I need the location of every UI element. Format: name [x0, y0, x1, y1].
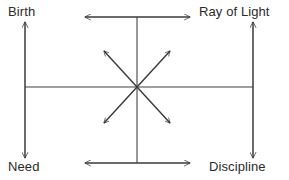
diagram-graphic [0, 0, 289, 180]
radiating-arrow-down-right [137, 87, 170, 123]
label-discipline: Discipline [209, 159, 266, 174]
diagram-canvas: Birth Ray of Light Need Discipline [0, 0, 289, 180]
radiating-arrow-up-right [137, 51, 170, 87]
label-birth: Birth [8, 4, 35, 19]
label-ray-of-light: Ray of Light [199, 4, 270, 19]
label-need: Need [8, 159, 39, 174]
radiating-arrow-up-left [104, 51, 137, 87]
radiating-arrow-down-left [104, 87, 137, 123]
